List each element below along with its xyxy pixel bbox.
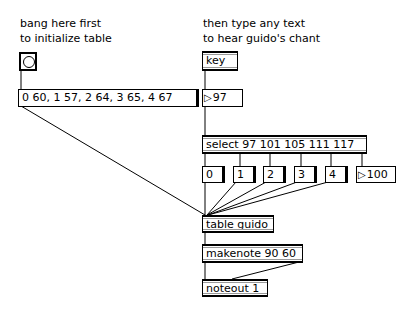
noteout-object[interactable]: noteout 1	[202, 279, 268, 297]
key-object[interactable]: key	[202, 51, 238, 71]
comment-bang-instruction-1: bang here first	[20, 16, 101, 31]
keycode-number-box[interactable]: ▷97	[202, 89, 243, 107]
select-object[interactable]: select 97 101 105 111 117	[202, 135, 367, 154]
patch-cords	[0, 0, 418, 312]
reject-number-box[interactable]: ▷100	[356, 166, 396, 183]
comment-type-instruction-1: then type any text	[203, 16, 305, 31]
table-object[interactable]: table guido	[202, 215, 274, 233]
index-message-2[interactable]: 2	[263, 166, 286, 183]
cord-makenote-velocity	[232, 262, 299, 279]
number-triangle-icon: ▷	[204, 91, 212, 105]
makenote-object[interactable]: makenote 90 60	[202, 244, 303, 263]
init-table-message[interactable]: 0 60, 1 57, 2 64, 3 65, 4 67	[18, 89, 199, 107]
reject-value: 100	[367, 168, 388, 181]
comment-type-instruction-2: to hear guido's chant	[203, 31, 320, 46]
cord-msg4-to-table	[208, 182, 328, 215]
comment-bang-instruction-2: to initialize table	[20, 31, 112, 46]
bang-circle-icon	[23, 56, 35, 68]
index-message-1[interactable]: 1	[233, 166, 256, 183]
cord-msg2-to-table	[207, 182, 266, 215]
index-message-0[interactable]: 0	[202, 166, 225, 183]
number-triangle-icon: ▷	[358, 168, 366, 182]
keycode-value: 97	[213, 91, 227, 104]
index-message-4[interactable]: 4	[325, 166, 348, 183]
bang-button[interactable]	[19, 52, 37, 71]
index-message-3[interactable]: 3	[294, 166, 317, 183]
cord-message-to-table	[21, 106, 205, 215]
